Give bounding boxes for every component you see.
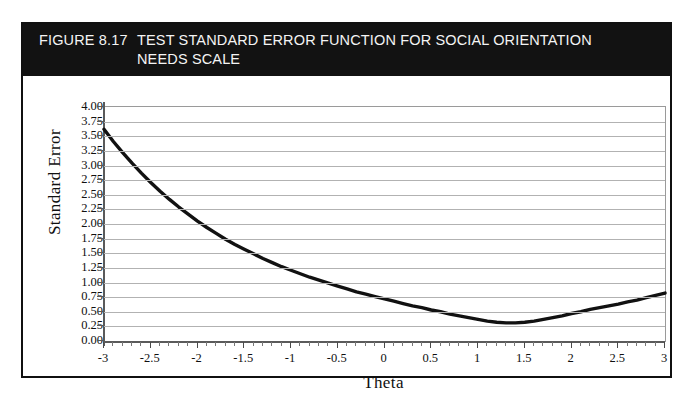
x-tick-mark-minor <box>281 342 282 346</box>
y-tick-mark <box>97 150 103 151</box>
x-tick-mark-minor <box>458 342 459 346</box>
figure-number-label: FIGURE 8.17 <box>39 31 137 50</box>
x-tick-mark-minor <box>355 342 356 346</box>
x-tick-mark-minor <box>271 342 272 346</box>
y-tick-mark <box>97 325 103 326</box>
x-tick-mark-minor <box>309 342 310 346</box>
x-tick-mark-major <box>524 342 525 348</box>
x-tick-mark-minor <box>561 342 562 346</box>
x-tick-mark-minor <box>253 342 254 346</box>
x-tick-mark-minor <box>318 342 319 346</box>
x-tick-mark-minor <box>365 342 366 346</box>
gridline-horizontal <box>104 312 665 313</box>
x-tick-mark-major <box>571 342 572 348</box>
x-tick-mark-major <box>290 342 291 348</box>
x-tick-mark-minor <box>440 342 441 346</box>
x-tick-mark-minor <box>327 342 328 346</box>
x-tick-label: 0.5 <box>405 351 455 366</box>
y-tick-mark <box>97 121 103 122</box>
x-tick-label: 3 <box>639 351 689 366</box>
x-tick-mark-minor <box>187 342 188 346</box>
x-tick-mark-minor <box>206 342 207 346</box>
x-tick-mark-minor <box>599 342 600 346</box>
gridline-horizontal <box>104 195 665 196</box>
gridline-horizontal <box>104 297 665 298</box>
x-tick-mark-minor <box>122 342 123 346</box>
x-tick-mark-major <box>103 342 104 348</box>
figure-title-label: TEST STANDARD ERROR FUNCTION FOR SOCIAL … <box>137 31 617 69</box>
x-tick-label: -1 <box>265 351 315 366</box>
y-tick-mark <box>97 208 103 209</box>
x-tick-mark-minor <box>393 342 394 346</box>
x-tick-mark-minor <box>552 342 553 346</box>
x-tick-mark-minor <box>168 342 169 346</box>
x-tick-mark-minor <box>159 342 160 346</box>
y-tick-mark <box>97 282 103 283</box>
gridline-horizontal <box>104 151 665 152</box>
x-tick-mark-major <box>337 342 338 348</box>
x-tick-label: 1 <box>452 351 502 366</box>
x-tick-mark-minor <box>589 342 590 346</box>
figure-title-banner: FIGURE 8.17TEST STANDARD ERROR FUNCTION … <box>23 24 670 76</box>
x-tick-mark-minor <box>645 342 646 346</box>
x-tick-mark-minor <box>514 342 515 346</box>
x-tick-mark-minor <box>627 342 628 346</box>
x-tick-mark-minor <box>374 342 375 346</box>
x-tick-mark-major <box>664 342 665 348</box>
x-tick-mark-minor <box>140 342 141 346</box>
x-tick-label: 2.5 <box>592 351 642 366</box>
gridline-horizontal <box>104 166 665 167</box>
x-tick-mark-minor <box>542 342 543 346</box>
x-tick-mark-minor <box>178 342 179 346</box>
x-tick-mark-major <box>150 342 151 348</box>
y-tick-mark <box>97 179 103 180</box>
gridline-horizontal <box>104 209 665 210</box>
x-tick-label: -2.5 <box>125 351 175 366</box>
x-tick-mark-minor <box>402 342 403 346</box>
x-tick-mark-minor <box>225 342 226 346</box>
x-tick-mark-minor <box>412 342 413 346</box>
x-tick-mark-minor <box>496 342 497 346</box>
x-tick-mark-minor <box>299 342 300 346</box>
gridline-horizontal <box>104 283 665 284</box>
x-tick-mark-minor <box>608 342 609 346</box>
x-tick-mark-major <box>243 342 244 348</box>
gridline-horizontal <box>104 326 665 327</box>
x-tick-mark-minor <box>505 342 506 346</box>
y-tick-mark <box>97 311 103 312</box>
y-tick-mark <box>97 165 103 166</box>
figure-title-row: FIGURE 8.17TEST STANDARD ERROR FUNCTION … <box>39 31 660 69</box>
x-tick-label: -1.5 <box>218 351 268 366</box>
y-tick-mark <box>97 135 103 136</box>
gridline-horizontal <box>104 136 665 137</box>
y-tick-mark <box>97 296 103 297</box>
x-tick-mark-minor <box>655 342 656 346</box>
gridline-horizontal <box>104 224 665 225</box>
x-tick-mark-minor <box>131 342 132 346</box>
y-tick-mark <box>97 238 103 239</box>
figure-frame: FIGURE 8.17TEST STANDARD ERROR FUNCTION … <box>21 22 672 378</box>
y-tick-mark <box>97 223 103 224</box>
x-tick-mark-minor <box>346 342 347 346</box>
y-tick-mark <box>97 194 103 195</box>
x-tick-mark-major <box>477 342 478 348</box>
gridline-horizontal <box>104 180 665 181</box>
x-tick-mark-minor <box>468 342 469 346</box>
gridline-horizontal <box>104 268 665 269</box>
x-tick-mark-minor <box>636 342 637 346</box>
x-tick-mark-major <box>617 342 618 348</box>
x-tick-mark-major <box>197 342 198 348</box>
x-tick-mark-minor <box>421 342 422 346</box>
x-tick-mark-minor <box>262 342 263 346</box>
x-tick-mark-minor <box>533 342 534 346</box>
chart-area: Standard Error 0.000.250.500.751.001.251… <box>23 76 670 376</box>
x-tick-label: 1.5 <box>499 351 549 366</box>
x-tick-mark-minor <box>112 342 113 346</box>
x-tick-mark-minor <box>486 342 487 346</box>
y-tick-mark <box>97 340 103 341</box>
x-tick-mark-major <box>430 342 431 348</box>
x-tick-mark-minor <box>215 342 216 346</box>
x-tick-label: 2 <box>546 351 596 366</box>
gridline-horizontal <box>104 253 665 254</box>
plot-box <box>103 106 666 342</box>
